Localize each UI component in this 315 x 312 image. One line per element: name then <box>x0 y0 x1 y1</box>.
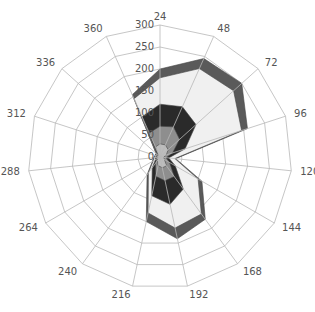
angular-label-144: 144 <box>282 222 301 233</box>
radial-label-250: 250 <box>135 41 154 52</box>
angular-label-312: 312 <box>7 108 26 119</box>
radial-label-200: 200 <box>135 63 154 74</box>
angular-label-360: 360 <box>84 23 103 34</box>
radial-label-150: 150 <box>135 85 154 96</box>
angular-label-96: 96 <box>294 108 307 119</box>
radial-label-300: 300 <box>135 19 154 30</box>
angular-label-120: 120 <box>300 166 315 177</box>
radar-chart: 2448729612014416819221624026428831233636… <box>0 0 315 312</box>
angular-label-264: 264 <box>19 222 38 233</box>
angular-label-24: 24 <box>154 11 167 22</box>
angular-label-288: 288 <box>1 166 20 177</box>
radial-label-100: 100 <box>135 107 154 118</box>
angular-label-72: 72 <box>265 57 278 68</box>
angular-label-336: 336 <box>36 57 55 68</box>
angular-label-168: 168 <box>243 266 262 277</box>
angular-label-240: 240 <box>58 266 77 277</box>
angular-label-192: 192 <box>189 289 208 300</box>
radial-label-0: 0 <box>148 151 154 162</box>
angular-label-48: 48 <box>217 23 230 34</box>
radial-label-50: 50 <box>141 129 154 140</box>
angular-label-216: 216 <box>112 289 131 300</box>
